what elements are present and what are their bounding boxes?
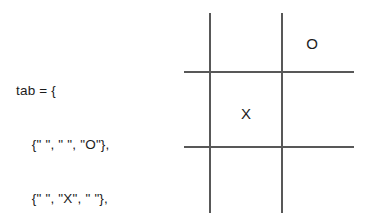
tic-tac-toe-board: O X: [184, 0, 369, 223]
grid-horizontal-line-top: [184, 71, 354, 73]
code-line-2: {" ", " ", "O"},: [16, 136, 110, 154]
code-line-1: tab = {: [16, 82, 110, 100]
grid-vertical-line-right: [281, 13, 283, 213]
table-source-code: tab = { {" ", " ", "O"}, {" ", "X", " "}…: [16, 46, 110, 223]
screenshot-canvas: tab = { {" ", " ", "O"}, {" ", "X", " "}…: [0, 0, 369, 223]
board-mark-center: X: [236, 106, 256, 121]
grid-horizontal-line-bottom: [184, 146, 354, 148]
board-mark-top-right: O: [302, 36, 322, 51]
code-line-3: {" ", "X", " "},: [16, 190, 110, 208]
grid-vertical-line-left: [209, 13, 211, 213]
